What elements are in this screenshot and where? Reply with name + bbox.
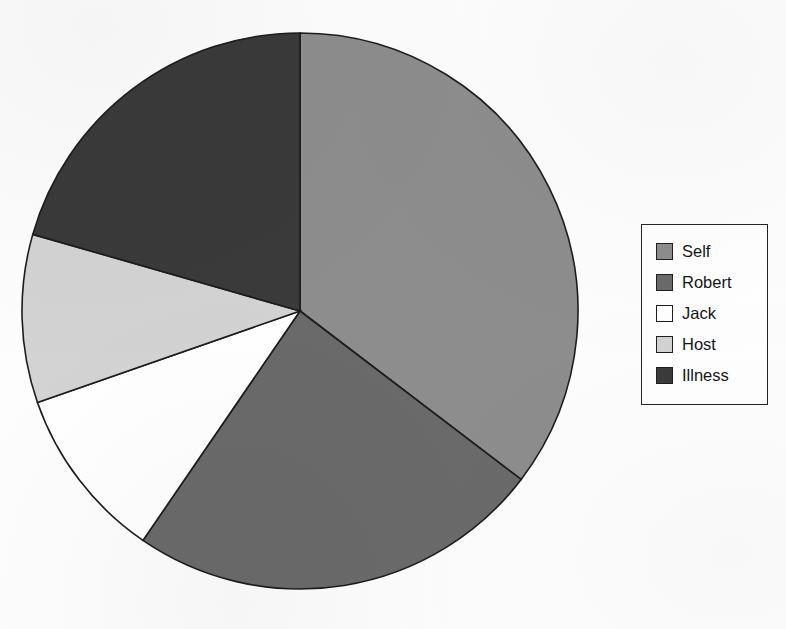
legend-swatch-illness [656, 367, 673, 384]
legend-label-robert: Robert [682, 274, 732, 291]
pie-slice-group [22, 33, 578, 589]
legend-label-illness: Illness [682, 367, 729, 384]
legend-swatch-jack [656, 305, 673, 322]
pie-chart-svg [0, 0, 620, 629]
legend-swatch-robert [656, 274, 673, 291]
chart-legend: Self Robert Jack Host Illness [641, 224, 768, 405]
pie-chart-figure: Self Robert Jack Host Illness [0, 0, 786, 629]
legend-item-self[interactable]: Self [656, 236, 767, 267]
legend-item-host[interactable]: Host [656, 329, 767, 360]
legend-swatch-self [656, 243, 673, 260]
legend-label-self: Self [682, 243, 710, 260]
pie-chart-plot-area [0, 0, 620, 629]
legend-swatch-host [656, 336, 673, 353]
legend-label-jack: Jack [682, 305, 716, 322]
legend-item-jack[interactable]: Jack [656, 298, 767, 329]
legend-item-robert[interactable]: Robert [656, 267, 767, 298]
legend-label-host: Host [682, 336, 716, 353]
cropped-caption-text [62, 0, 292, 5]
legend-item-illness[interactable]: Illness [656, 360, 767, 391]
